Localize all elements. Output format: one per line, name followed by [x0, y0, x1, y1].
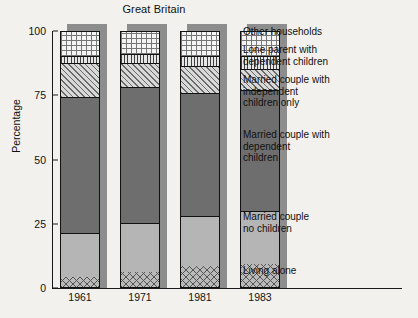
x-axis-line	[52, 288, 402, 289]
bar-body	[120, 31, 160, 288]
chart-title: Great Britain	[0, 3, 418, 15]
bar-segment[interactable]	[181, 31, 219, 56]
bar-segment[interactable]	[181, 66, 219, 93]
bar-1981[interactable]	[180, 31, 220, 288]
bar-segment[interactable]	[121, 54, 159, 63]
bar-segment[interactable]	[121, 223, 159, 272]
y-tick-label: 75	[12, 89, 46, 101]
x-tick-label-1983: 1983	[225, 291, 295, 303]
bar-segment[interactable]	[121, 272, 159, 287]
bar-segment[interactable]	[121, 63, 159, 86]
chart-title-text: Great Britain	[122, 3, 185, 15]
legend-item[interactable]: Living alone	[243, 265, 296, 277]
bar-segment[interactable]	[61, 56, 99, 64]
bar-1971[interactable]	[120, 31, 160, 288]
legend-item[interactable]: Married couple with dependent children	[243, 129, 330, 164]
bar-segment[interactable]	[181, 93, 219, 216]
bar-segment[interactable]	[61, 277, 99, 287]
bar-segment[interactable]	[61, 97, 99, 233]
y-tick-label: 25	[12, 218, 46, 230]
y-tick-label: 50	[12, 154, 46, 166]
chart-root: Great Britain Percentage 0255075100 1961…	[0, 0, 418, 318]
bar-body	[60, 31, 100, 288]
bar-segment[interactable]	[181, 56, 219, 66]
legend-item[interactable]: Lone parent with dependent children	[243, 44, 328, 67]
y-tick-label: 0	[12, 282, 46, 294]
bar-segment[interactable]	[61, 233, 99, 277]
plot-area	[52, 31, 402, 288]
bar-segment[interactable]	[121, 31, 159, 54]
bar-body	[180, 31, 220, 288]
bar-segment[interactable]	[181, 216, 219, 266]
bar-segment[interactable]	[121, 87, 159, 223]
bar-1961[interactable]	[60, 31, 100, 288]
legend-item[interactable]: Married couple no children	[243, 211, 309, 234]
bar-segment[interactable]	[61, 63, 99, 96]
legend-item[interactable]: Other households	[243, 26, 322, 38]
y-axis-ticks: 0255075100	[6, 0, 46, 318]
y-tick-label: 100	[12, 25, 46, 37]
bar-segment[interactable]	[181, 266, 219, 287]
bar-segment[interactable]	[61, 31, 99, 56]
legend-item[interactable]: Married couple with independent children…	[243, 74, 330, 109]
